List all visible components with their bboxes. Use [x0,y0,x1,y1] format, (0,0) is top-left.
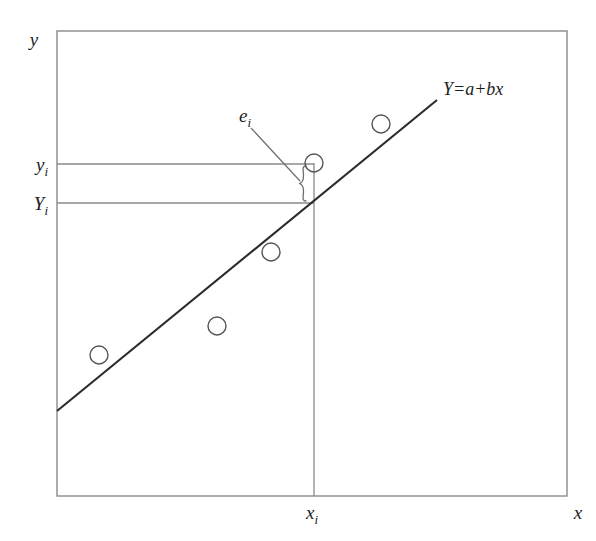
data-point [208,317,226,335]
residual-label-main: e [239,105,247,126]
x-point-label: xi [305,502,318,527]
x-point-label-sub: i [314,512,318,527]
x-axis-label: x [573,502,583,523]
y-fitted-label-sub: i [44,203,48,218]
regression-line [57,100,437,411]
y-fitted-label: Yi [34,193,49,218]
residual-label: ei [239,105,251,130]
regression-equation-label: Y=a+bx [443,79,503,99]
residual-leader-line [251,128,300,181]
regression-diagram-figure: y x yi Yi xi ei Y=a+bx [0,0,596,541]
residual-label-sub: i [247,115,251,130]
residual-brace [300,166,307,201]
y-observed-label-sub: i [44,164,48,179]
y-observed-label: yi [34,154,48,179]
y-axis-label: y [28,29,39,50]
y-observed-label-main: y [34,154,45,175]
data-point [262,243,280,261]
diagram-canvas: y x yi Yi xi ei Y=a+bx [0,0,596,541]
plot-frame [57,31,567,496]
data-point [90,346,108,364]
data-point [372,115,390,133]
